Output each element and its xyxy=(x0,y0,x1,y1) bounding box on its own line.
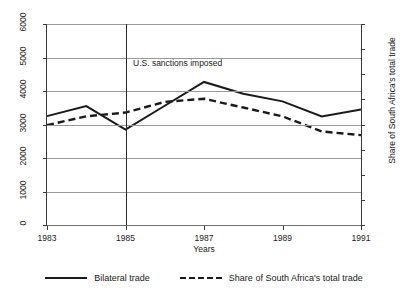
legend-label-share-total-trade: Share of South Africa's total trade xyxy=(229,273,363,283)
x-tick-label: 1991 xyxy=(341,233,381,243)
legend-line-solid-icon xyxy=(45,277,87,279)
y-axis-right-line xyxy=(361,24,362,226)
legend-label-bilateral-trade: Bilateral trade xyxy=(94,273,150,283)
x-tick xyxy=(126,226,127,230)
x-tick xyxy=(283,226,284,230)
legend-item-bilateral-trade: Bilateral trade xyxy=(45,273,150,283)
reference-line-sanctions xyxy=(126,24,127,225)
x-tick xyxy=(361,226,362,230)
gridline-horizontal xyxy=(47,192,361,193)
y-tick-label-left: 4000 xyxy=(18,72,28,106)
y-axis-left-line xyxy=(46,24,47,226)
x-tick-label: 1985 xyxy=(106,233,146,243)
gridline-horizontal xyxy=(47,91,361,92)
gridline-horizontal xyxy=(47,125,361,126)
y-tick-label-left: 1000 xyxy=(18,173,28,207)
series-line-share-total-trade xyxy=(47,99,361,135)
y-tick-label-left: 6000 xyxy=(18,5,28,39)
chart-figure: Trade flow in millions of U.S. dollars S… xyxy=(0,0,408,295)
x-tick-label: 1987 xyxy=(184,233,224,243)
x-tick xyxy=(47,226,48,230)
y-tick-label-left: 2000 xyxy=(18,139,28,173)
x-tick-label: 1989 xyxy=(263,233,303,243)
y-axis-right-title: Share of South Africa's total trade xyxy=(385,0,399,201)
x-tick xyxy=(204,226,205,230)
legend-item-share-total-trade: Share of South Africa's total trade xyxy=(180,273,363,283)
x-axis-title: Years xyxy=(174,244,234,254)
y-tick-label-left: 3000 xyxy=(18,106,28,140)
plot-area: 01000200030004000500060000.02.04.06.08.1… xyxy=(47,24,361,225)
y-tick-label-left: 5000 xyxy=(18,39,28,73)
gridline-horizontal xyxy=(47,24,361,25)
chart-legend: Bilateral trade Share of South Africa's … xyxy=(0,268,408,288)
gridline-horizontal xyxy=(47,158,361,159)
annotation-sanctions: U.S. sanctions imposed xyxy=(133,58,222,68)
legend-line-dashed-icon xyxy=(180,277,222,279)
x-tick-label: 1983 xyxy=(27,233,67,243)
series-line-bilateral-trade xyxy=(47,82,361,130)
